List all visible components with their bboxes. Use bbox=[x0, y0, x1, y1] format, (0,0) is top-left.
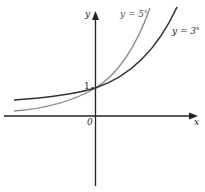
x-axis-label: x bbox=[194, 117, 199, 127]
intercept-label: 1 bbox=[84, 81, 90, 91]
series-label-3-pow-x: y = 3x bbox=[172, 24, 199, 36]
series-label-5-pow-x: y = 5x bbox=[120, 7, 147, 19]
origin-label: 0 bbox=[87, 117, 93, 127]
y-axis-label: y bbox=[85, 9, 90, 19]
y-axis-arrow-icon bbox=[92, 11, 99, 20]
curve-5-pow-x bbox=[14, 8, 150, 111]
